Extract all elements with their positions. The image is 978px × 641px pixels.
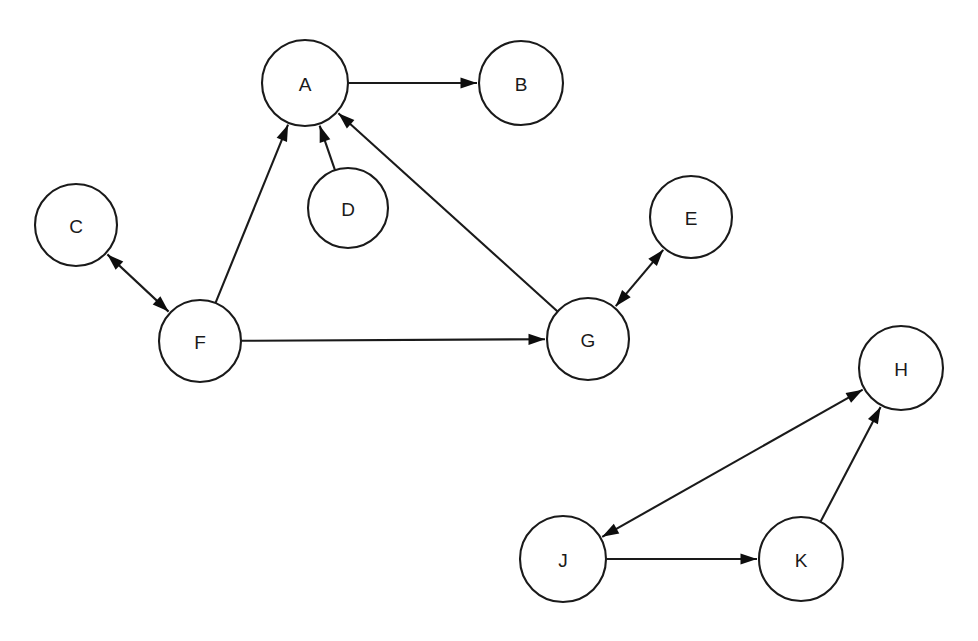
arrowhead-K-to-H [868,407,881,424]
node-circle-B[interactable] [479,41,563,125]
node-circle-F[interactable] [159,300,241,382]
node-circle-J[interactable] [520,516,606,602]
node-circle-E[interactable] [650,176,732,258]
node-F[interactable]: F [159,300,241,382]
edge-A-B[interactable]: A to B [348,77,477,88]
node-circle-K[interactable] [759,517,843,601]
edge-line-K-H[interactable] [820,407,880,522]
edge-J-K[interactable]: J to K [606,553,757,564]
node-circle-G[interactable] [547,298,629,380]
node-D[interactable]: D [308,168,388,248]
node-G[interactable]: G [547,298,629,380]
graph-svg: A to BF to AD to AG to AC and FF to GG a… [0,0,978,641]
edge-line-F-A[interactable] [215,125,288,303]
node-J[interactable]: J [520,516,606,602]
edge-F-A[interactable]: F to A [215,125,288,303]
node-A[interactable]: A [262,40,348,126]
node-circle-H[interactable] [859,326,943,410]
node-circle-D[interactable] [308,168,388,248]
arrowhead-H-to-J [602,524,619,537]
node-circle-A[interactable] [262,40,348,126]
arrowhead-J-to-H [846,390,863,403]
edge-line-F-G[interactable] [241,339,545,341]
arrowhead-D-to-A [320,126,331,143]
node-circle-C[interactable] [35,184,117,266]
node-B[interactable]: B [479,41,563,125]
arrowhead-F-to-G [528,334,545,345]
node-K[interactable]: K [759,517,843,601]
node-H[interactable]: H [859,326,943,410]
node-C[interactable]: C [35,184,117,266]
arrowhead-A-to-B [461,77,478,88]
edge-C-F[interactable]: C and F [107,254,168,311]
edge-F-G[interactable]: F to G [241,334,545,345]
edge-K-H[interactable]: K to H [820,407,880,522]
arrowhead-F-to-A [277,125,288,142]
edge-G-E[interactable]: G and E [616,250,664,306]
nodes-layer: ABCDEFGHJK [35,40,943,602]
arrowhead-J-to-K [741,553,758,564]
node-E[interactable]: E [650,176,732,258]
diagram-canvas: A to BF to AD to AG to AC and FF to GG a… [0,0,978,641]
edge-D-A[interactable]: D to A [320,126,335,171]
